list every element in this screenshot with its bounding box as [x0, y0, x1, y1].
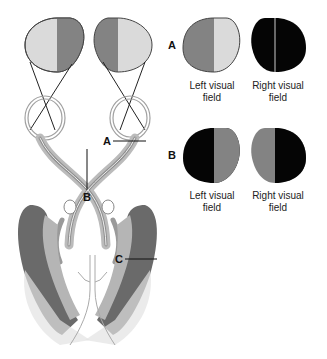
- right-eye-visual-field: [94, 18, 152, 72]
- caption-line: Left visual: [180, 80, 244, 92]
- panel-a-right-caption: Right visual field: [245, 80, 311, 104]
- panel-b-left-field: [183, 128, 240, 183]
- label-a-optic-nerve: A: [103, 135, 111, 147]
- panel-b-left-caption: Left visual field: [180, 190, 244, 214]
- label-b-optic-chiasm: B: [83, 191, 91, 203]
- visual-pathway-diagram: A B C A Left visual field Right visual f…: [0, 0, 327, 359]
- caption-line: Right visual: [245, 80, 311, 92]
- panel-a-left-field: [183, 18, 240, 72]
- panel-a-left-caption: Left visual field: [180, 80, 244, 104]
- caption-line: field: [245, 202, 311, 214]
- panel-a-letter: A: [168, 39, 176, 51]
- caption-line: field: [180, 92, 244, 104]
- visual-pathway-illustration: [0, 0, 327, 359]
- caption-line: Left visual: [180, 190, 244, 202]
- label-c-optic-radiation: C: [115, 253, 123, 265]
- panel-a-right-field: [251, 18, 306, 72]
- panel-b-right-caption: Right visual field: [245, 190, 311, 214]
- panel-b-letter: B: [168, 149, 176, 161]
- caption-line: Right visual: [245, 190, 311, 202]
- left-eye-visual-field: [25, 18, 84, 72]
- optic-radiations: [18, 205, 157, 345]
- eyeballs: [25, 96, 150, 140]
- caption-line: field: [245, 92, 311, 104]
- panel-b-right-field: [251, 128, 306, 183]
- caption-line: field: [180, 202, 244, 214]
